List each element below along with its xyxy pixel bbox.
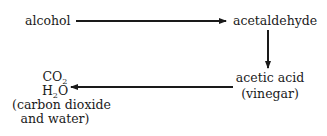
h2o-formula: H2O — [12, 84, 98, 98]
and-water-label: and water) — [12, 112, 98, 126]
node-acetaldehyde: acetaldehyde — [233, 14, 317, 28]
h2o-o: O — [58, 83, 68, 98]
co2-base: CO — [43, 69, 63, 84]
h2o-h: H — [42, 83, 53, 98]
acetic-acid-label: acetic acid — [234, 71, 306, 85]
co2-formula: CO2 — [12, 70, 98, 84]
vinegar-label: (vinegar) — [234, 87, 306, 101]
node-products: CO2 H2O (carbon dioxide and water) — [12, 70, 98, 126]
node-acetic-acid: acetic acid (vinegar) — [234, 71, 306, 101]
carbon-dioxide-label: (carbon dioxide — [12, 98, 98, 112]
node-alcohol: alcohol — [25, 14, 71, 28]
